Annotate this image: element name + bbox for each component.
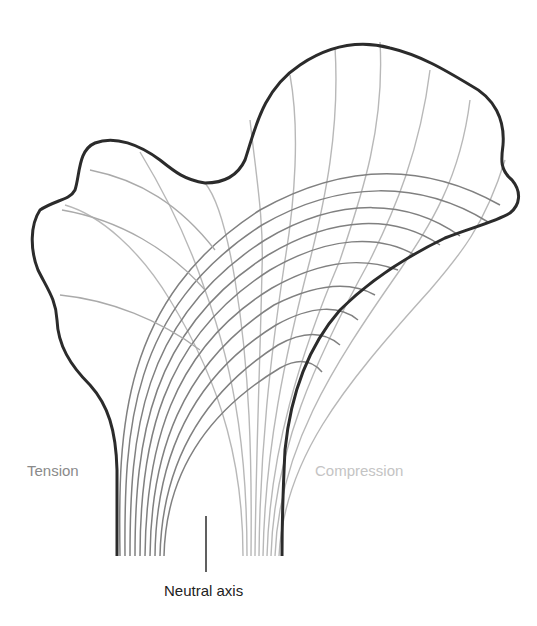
tension-trajectories bbox=[120, 174, 500, 556]
trochanter-trajectories bbox=[60, 170, 215, 350]
neutral-axis-label: Neutral axis bbox=[164, 582, 243, 599]
femur-outline bbox=[32, 44, 518, 556]
femur-stress-diagram bbox=[0, 0, 537, 626]
compression-label: Compression bbox=[315, 462, 403, 479]
tension-label: Tension bbox=[27, 462, 79, 479]
